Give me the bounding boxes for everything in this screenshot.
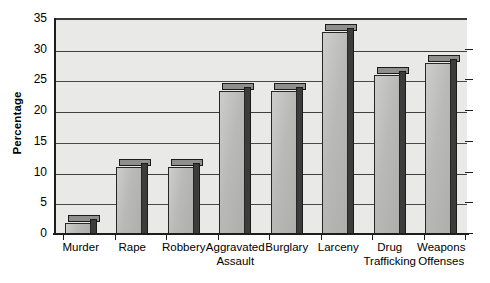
bar-drug-trafficking [374, 67, 406, 235]
x-tick-2 [166, 233, 167, 240]
y-axis-tick-labels: 05101520253035 [24, 0, 50, 245]
y-tick-label-35: 35 [34, 12, 47, 24]
x-label-line: Assault [200, 255, 270, 269]
x-label-line: Offenses [406, 255, 476, 269]
bar-side-face [141, 163, 148, 235]
x-tick-0 [63, 233, 64, 240]
bar-front-face [219, 91, 245, 235]
right-tick-30 [465, 49, 473, 50]
y-axis-title-text: Percentage [10, 91, 22, 154]
bar-weapons-offenses [425, 55, 457, 235]
y-tick-label-30: 30 [34, 43, 47, 55]
y-tick-label-25: 25 [34, 73, 47, 85]
right-tick-20 [465, 110, 473, 111]
bar-rape [116, 159, 148, 235]
bar-side-face [193, 163, 200, 235]
x-tick-7 [424, 233, 425, 240]
y-tick-label-0: 0 [40, 227, 47, 239]
x-tick-6 [372, 233, 373, 240]
x-label-weapons-offenses: WeaponsOffenses [406, 241, 476, 268]
bar-aggravated-assault [219, 83, 251, 235]
x-label-line: Weapons [406, 241, 476, 255]
right-tick-5 [465, 202, 473, 203]
gridline-30 [55, 51, 467, 52]
y-tick-label-20: 20 [34, 104, 47, 116]
y-tick-label-5: 5 [40, 196, 47, 208]
bar-murder [65, 215, 97, 235]
x-tick-5 [321, 233, 322, 240]
x-tick-3 [218, 233, 219, 240]
bar-side-face [347, 28, 354, 235]
bar-front-face [116, 167, 142, 235]
bar-front-face [425, 63, 451, 235]
bar-side-face [244, 87, 251, 235]
plot-area [55, 18, 467, 235]
bar-side-face [450, 59, 457, 235]
y-tick-label-15: 15 [34, 135, 47, 147]
x-tick-1 [115, 233, 116, 240]
bar-chart: Percentage 05101520253035 MurderRapeRobb… [0, 0, 490, 283]
bar-front-face [374, 75, 400, 235]
x-axis-category-labels: MurderRapeRobberyAggravatedAssaultBurgla… [55, 241, 467, 283]
bar-front-face [322, 32, 348, 235]
bar-side-face [296, 87, 303, 235]
bar-larceny [322, 24, 354, 235]
bar-front-face [168, 167, 194, 235]
bar-robbery [168, 159, 200, 235]
x-tick-end [465, 233, 466, 240]
bar-burglary [271, 83, 303, 235]
right-tick-0 [465, 233, 473, 234]
bar-front-face [271, 91, 297, 235]
y-axis-line [54, 18, 56, 235]
bar-side-face [399, 71, 406, 235]
x-tick-4 [269, 233, 270, 240]
y-tick-label-10: 10 [34, 166, 47, 178]
right-tick-10 [465, 172, 473, 173]
right-tick-15 [465, 141, 473, 142]
right-tick-25 [465, 79, 473, 80]
